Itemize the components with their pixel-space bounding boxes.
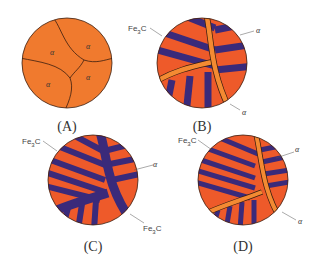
alpha-leader-line [240,31,254,35]
panel-label-c: (C) [84,239,103,255]
svg-text:α: α [256,26,261,35]
fe3c-leader-line [150,28,162,36]
annotation-fe3c-b: Fe3C [128,24,146,35]
annotation-fe3c-c-top: Fe3C [22,137,40,148]
svg-text:α: α [298,217,303,226]
panel-c-pearlite-cementite-boundary: α [43,132,158,230]
svg-text:α: α [153,160,158,169]
panel-b-pearlite-ferrite-boundary: α α [150,12,261,117]
panel-a-ferrite-grains: α α α α [20,16,114,112]
svg-text:α: α [295,145,300,154]
annotation-fe3c-d: Fe3C [178,136,196,147]
annotation-fe3c-c-bottom: Fe3C [143,224,161,235]
svg-text:α: α [242,108,247,117]
alpha-leader-line [230,104,240,110]
panel-label-b: (B) [193,119,212,135]
panel-label-d: (D) [233,239,252,255]
panel-label-a: (A) [57,119,76,135]
panel-d-pearlite-ferrite-boundary: α α [195,134,303,230]
